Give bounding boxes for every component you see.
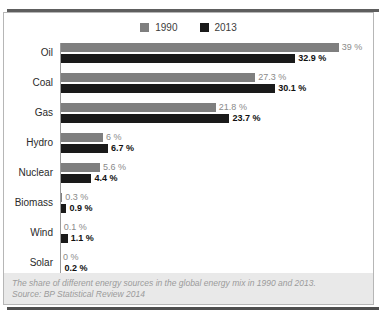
bar-1990 [60, 73, 255, 82]
legend-item-1990: 1990 [140, 22, 177, 33]
bar-1990 [60, 133, 103, 142]
bottom-divider [7, 307, 379, 310]
value-label-1990: 0.3 % [65, 193, 88, 202]
bar-pair: 27.3 %30.1 % [60, 73, 306, 93]
bar-pair: 0 %0.2 % [60, 253, 87, 273]
legend-swatch-1990 [140, 23, 149, 32]
value-label-1990: 21.8 % [219, 103, 247, 112]
value-label-1990: 0.1 % [64, 223, 87, 232]
bar-row: 30.1 % [60, 84, 306, 93]
bar-2013 [60, 174, 91, 183]
bar-pair: 0.1 %1.1 % [60, 223, 94, 243]
value-label-2013: 23.7 % [232, 114, 260, 123]
bar-pair: 6 %6.7 % [60, 133, 134, 153]
value-label-1990: 5.6 % [103, 163, 126, 172]
caption-strip: The share of different energy sources in… [4, 273, 373, 304]
bar-row: 21.8 % [60, 103, 260, 112]
screenshot-root: 1990 2013 Oil39 %32.9 %Coal27.3 %30.1 %G… [0, 0, 379, 311]
bar-row: 27.3 % [60, 73, 306, 82]
caption-text: The share of different energy sources in… [12, 278, 365, 289]
bar-row: 6 % [60, 133, 134, 142]
bar-2013 [60, 144, 108, 153]
category-label: Gas [4, 107, 60, 118]
bar-2013 [60, 114, 229, 123]
bar-row: 0.1 % [60, 223, 94, 232]
value-label-2013: 0.9 % [69, 204, 92, 213]
bar-1990 [60, 163, 100, 172]
value-label-2013: 30.1 % [278, 84, 306, 93]
bar-pair: 39 %32.9 % [60, 43, 362, 63]
category-label: Coal [4, 77, 60, 88]
value-label-2013: 1.1 % [71, 234, 94, 243]
bar-2013 [60, 84, 275, 93]
bar-2013 [60, 234, 68, 243]
legend-swatch-2013 [200, 23, 209, 32]
legend-item-2013: 2013 [200, 22, 237, 33]
category-label: Oil [4, 47, 60, 58]
legend-label-2013: 2013 [215, 22, 237, 33]
bar-row: 0.2 % [60, 264, 87, 273]
bar-row: 0.3 % [60, 193, 92, 202]
value-label-1990: 0 % [63, 253, 79, 262]
category-label: Nuclear [4, 167, 60, 178]
bar-row: 4.4 % [60, 174, 126, 183]
value-label-1990: 27.3 % [258, 73, 286, 82]
value-label-1990: 39 % [342, 43, 363, 52]
bar-row: 0 % [60, 253, 87, 262]
bar-1990 [60, 43, 339, 52]
chart-legend: 1990 2013 [4, 22, 373, 34]
legend-label-1990: 1990 [155, 22, 177, 33]
category-label: Biomass [4, 197, 60, 208]
bar-2013 [60, 54, 295, 63]
bar-pair: 0.3 %0.9 % [60, 193, 92, 213]
value-label-1990: 6 % [106, 133, 122, 142]
bar-row: 39 % [60, 43, 362, 52]
caption-source: Source: BP Statistical Review 2014 [12, 289, 365, 300]
category-label: Solar [4, 257, 60, 268]
bar-1990 [60, 103, 216, 112]
bar-pair: 5.6 %4.4 % [60, 163, 126, 183]
chart-panel: 1990 2013 Oil39 %32.9 %Coal27.3 %30.1 %G… [3, 12, 374, 305]
category-label: Hydro [4, 137, 60, 148]
category-label: Wind [4, 227, 60, 238]
value-label-2013: 32.9 % [298, 54, 326, 63]
axis-line [60, 43, 61, 273]
bar-chart: Oil39 %32.9 %Coal27.3 %30.1 %Gas21.8 %23… [4, 43, 373, 273]
bar-row: 1.1 % [60, 234, 94, 243]
bar-row: 6.7 % [60, 144, 134, 153]
value-label-2013: 4.4 % [94, 174, 117, 183]
bar-pair: 21.8 %23.7 % [60, 103, 260, 123]
bar-row: 23.7 % [60, 114, 260, 123]
bar-row: 0.9 % [60, 204, 92, 213]
bar-row: 5.6 % [60, 163, 126, 172]
value-label-2013: 6.7 % [111, 144, 134, 153]
value-label-2013: 0.2 % [64, 264, 87, 273]
bar-row: 32.9 % [60, 54, 362, 63]
